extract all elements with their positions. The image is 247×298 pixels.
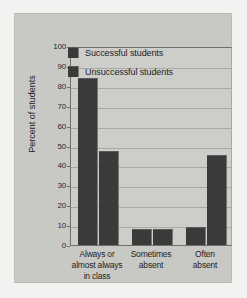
y-tick-label: 30 xyxy=(42,182,66,190)
chart-legend: Successful studentsUnsuccessful students xyxy=(68,44,172,82)
bar xyxy=(153,229,173,245)
chart-panel: Percent of students 10090807060504030201… xyxy=(14,13,232,283)
y-axis-title: Percent of students xyxy=(27,59,37,169)
y-tick-label: 70 xyxy=(42,103,66,111)
y-axis-tick-labels: 1009080706050403020100 xyxy=(40,47,66,246)
y-tick-label: 10 xyxy=(42,222,66,230)
y-tick-label: 80 xyxy=(42,83,66,91)
chart-figure: Percent of students 10090807060504030201… xyxy=(0,0,247,298)
y-tickmark xyxy=(67,246,70,247)
bar xyxy=(78,78,98,245)
bar xyxy=(132,229,152,245)
legend-item: Unsuccessful students xyxy=(68,63,172,80)
x-category-label-line: in class xyxy=(62,271,132,282)
x-category-label-line: absent xyxy=(170,260,240,271)
legend-label: Unsuccessful students xyxy=(85,67,173,77)
bar xyxy=(99,151,119,245)
legend-swatch-icon xyxy=(68,66,79,77)
y-tick-label: 50 xyxy=(42,143,66,151)
x-axis-category-labels: Always oralmost alwaysin classSometimesa… xyxy=(70,249,232,293)
y-tick-label: 40 xyxy=(42,162,66,170)
bar xyxy=(207,155,227,245)
x-category-label: Oftenabsent xyxy=(170,249,240,271)
y-tick-label: 60 xyxy=(42,123,66,131)
y-tick-label: 100 xyxy=(42,43,66,51)
bar xyxy=(186,227,206,245)
y-tick-label: 90 xyxy=(42,63,66,71)
y-tick-label: 20 xyxy=(42,202,66,210)
legend-label: Successful students xyxy=(85,48,163,58)
x-category-label-line: Often xyxy=(170,249,240,260)
legend-swatch-icon xyxy=(68,47,79,58)
legend-item: Successful students xyxy=(68,44,172,61)
